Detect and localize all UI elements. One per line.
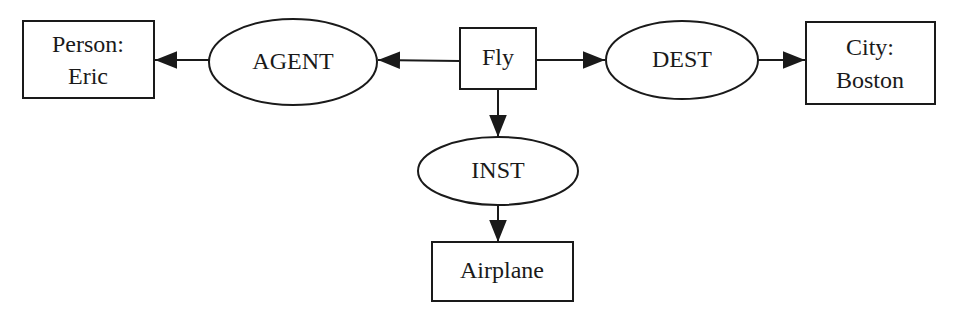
node-dest: DEST bbox=[606, 21, 758, 99]
node-label: Boston bbox=[836, 67, 904, 93]
edge-fly-to-agent bbox=[378, 60, 460, 61]
node-inst: INST bbox=[418, 137, 578, 205]
node-label: AGENT bbox=[252, 48, 334, 74]
node-label: INST bbox=[471, 157, 525, 183]
node-label: DEST bbox=[652, 46, 712, 72]
node-label: Fly bbox=[482, 44, 514, 70]
node-person-eric: Person: Eric bbox=[23, 21, 154, 98]
node-label: Person: bbox=[52, 31, 124, 57]
conceptual-graph-diagram: Person: Eric AGENT Fly DEST City: Boston… bbox=[0, 0, 957, 316]
node-label: Airplane bbox=[460, 257, 544, 283]
node-agent: AGENT bbox=[209, 19, 377, 105]
node-label: City: bbox=[846, 34, 894, 60]
node-city-boston: City: Boston bbox=[806, 22, 935, 104]
node-fly: Fly bbox=[460, 28, 536, 89]
node-airplane: Airplane bbox=[432, 242, 573, 301]
node-label: Eric bbox=[68, 63, 108, 89]
